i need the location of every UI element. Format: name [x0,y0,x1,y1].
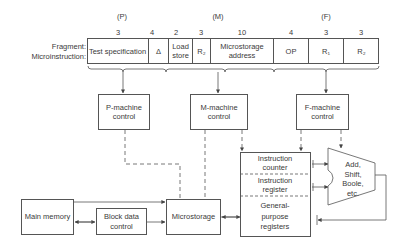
instruction-counter: Instruction counter [240,154,310,172]
alu-label: Add, Shift, Boole, etc. [336,160,370,198]
microstorage: Microstorage [166,199,221,235]
p-machine-control: P-machine control [98,94,150,130]
block-data-control: Block data control [96,208,147,235]
general-purpose-registers: General-purpose registers [240,201,310,233]
brace-p [88,66,166,72]
brace-m [166,69,274,72]
main-memory: Main memory [21,199,74,235]
m-machine-control: M-machine control [190,94,248,130]
instruction-register: Instruction register [240,176,310,194]
f-machine-control: F-machine control [296,94,349,130]
brace-f [274,66,379,72]
